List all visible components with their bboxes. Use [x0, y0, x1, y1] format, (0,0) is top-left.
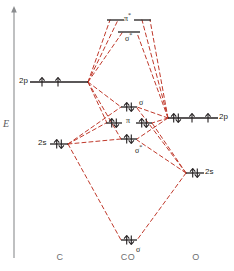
energy-axis-label: E [3, 118, 9, 129]
correlation-lines-group [68, 20, 186, 240]
mo-label-pi-bonding: π [126, 116, 130, 125]
mo-label-sigma-star-lower: σ* [135, 144, 142, 155]
correlation-line-o-2p-to-mo-sigma-nb [137, 107, 168, 118]
mo-star-glyph: * [128, 12, 131, 18]
orbital-label-o-2p: 2p [219, 112, 228, 121]
correlation-line-o-2p-to-mo-pi-bonding-r [152, 118, 168, 123]
column-label-oxygen: O [182, 252, 210, 262]
mo-label-sigma-nonbonding: σ [139, 98, 143, 107]
orbital-label-c-2s: 2s [38, 138, 46, 147]
correlation-line-c-2s-to-mo-sigma-bonding [68, 144, 121, 240]
column-label-carbon: C [46, 252, 74, 262]
mo-star-glyph: * [129, 32, 132, 38]
correlation-line-o-2p-to-mo-pi-star [150, 20, 168, 118]
energy-axis-group [11, 6, 17, 258]
mo-label-sigma-bonding: σ [136, 245, 140, 254]
mo-diagram-figure: E C CO O 2p 2s 2p 2s π* σ* σ π σ* σ [0, 0, 234, 271]
correlation-line-c-2p-to-mo-sigma-nb [88, 82, 121, 107]
correlation-line-o-2s-to-mo-pi-bonding-r [152, 123, 186, 173]
correlation-line-o-2p-to-mo-pi-star-b [142, 20, 168, 118]
energy-levels-group [30, 20, 218, 240]
mo-label-pi-star: π* [124, 12, 131, 23]
correlation-line-o-2s-to-mo-sigma-bonding [137, 173, 186, 240]
correlation-line-c-2p-to-mo-pi-star-b [88, 20, 118, 82]
mo-star-glyph: * [139, 144, 142, 150]
electron-arrows-group [39, 78, 210, 245]
correlation-line-c-2p-to-mo-pi-star [88, 20, 110, 82]
correlation-line-c-2p-to-mo-sigma-star-upper [88, 33, 122, 82]
orbital-label-o-2s: 2s [205, 167, 213, 176]
mo-label-sigma-star-upper: σ* [125, 32, 132, 43]
diagram-canvas [0, 0, 234, 271]
correlation-line-c-2p-to-mo-pi-bonding-l [88, 82, 107, 123]
correlation-line-o-2s-to-mo-sigma-star-lower [137, 140, 186, 173]
orbital-label-c-2p: 2p [19, 76, 28, 85]
